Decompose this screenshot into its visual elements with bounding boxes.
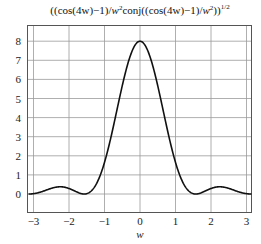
grid-lines	[28, 26, 252, 213]
x-axis-ticks: −3−2−10123	[28, 215, 250, 227]
x-tick-label: 0	[137, 215, 143, 227]
y-axis-ticks: 012345678	[16, 35, 22, 200]
y-tick-label: 3	[16, 131, 22, 143]
y-tick-label: 0	[16, 188, 22, 200]
plot-frame	[28, 26, 252, 213]
x-tick-label: 2	[208, 215, 214, 227]
chart: ((cos(4w)−1)/w2conj((cos(4w)−1)/w2))1/2 …	[0, 0, 261, 244]
y-tick-label: 6	[16, 73, 22, 85]
x-tick-label: −2	[63, 215, 75, 227]
x-tick-label: −3	[28, 215, 40, 227]
y-tick-label: 8	[16, 35, 22, 47]
x-axis-label: w	[136, 228, 144, 240]
x-tick-label: 1	[173, 215, 179, 227]
y-tick-label: 7	[16, 54, 22, 66]
y-tick-label: 1	[16, 169, 22, 181]
x-tick-label: 3	[244, 215, 250, 227]
y-tick-label: 2	[16, 150, 22, 162]
chart-title: ((cos(4w)−1)/w2conj((cos(4w)−1)/w2))1/2	[50, 3, 230, 17]
x-tick-label: −1	[99, 215, 111, 227]
y-tick-label: 5	[16, 93, 22, 105]
y-tick-label: 4	[16, 112, 22, 124]
